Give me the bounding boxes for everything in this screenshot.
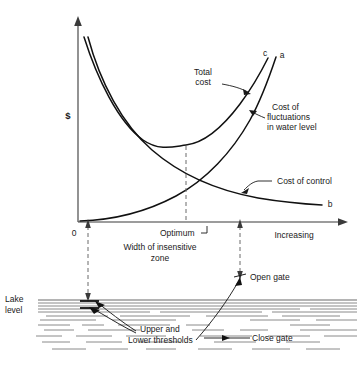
right-drop-arrowhead-up [237, 219, 243, 228]
width-label-line2: zone [151, 253, 170, 263]
fluctuations-leader-arrowhead [249, 110, 257, 116]
origin-label-zero: 0 [72, 228, 77, 238]
curve-letter-b: b [328, 199, 333, 209]
label-cost-fluctuations: Cost of fluctuations in water level [249, 102, 317, 132]
upper-threshold-leader [98, 303, 136, 331]
close-gate-label: Close gate [252, 333, 293, 343]
lake-level-line1: Lake [5, 294, 24, 304]
open-gate-pointer-line [196, 282, 238, 340]
curve-letter-a: a [280, 50, 285, 60]
figure-root: c a b Total cost Cost of fluctuations in… [0, 0, 357, 369]
fluctuations-line3: in water level [267, 122, 317, 132]
x-axis-label-increasing: Increasing [274, 230, 313, 240]
y-axis-label-dollar: $ [65, 110, 71, 121]
thresholds-label-line2: Lower thresholds [128, 335, 193, 345]
cost-control-leader-curve [244, 181, 258, 190]
curve-total-cost [84, 37, 268, 147]
annotation-optimum: Optimum [160, 226, 207, 238]
thresholds-label-line1: Upper and [140, 324, 180, 334]
total-cost-line1: Total [194, 67, 212, 77]
optimum-leader [201, 226, 207, 233]
fluctuations-line2: fluctuations [267, 112, 310, 122]
total-cost-line2: cost [195, 77, 211, 87]
x-axis-arrowhead [338, 218, 348, 226]
curve-letter-c: c [263, 48, 268, 58]
y-axis-arrowhead [74, 16, 82, 26]
open-gate-label: Open gate [250, 272, 290, 282]
optimum-label: Optimum [160, 228, 194, 238]
label-total-cost: Total cost [194, 67, 251, 95]
fluctuations-line1: Cost of [272, 102, 300, 112]
cost-control-text: Cost of control [277, 176, 332, 186]
lake-level-line2: level [5, 305, 23, 315]
label-cost-control: Cost of control [241, 176, 332, 194]
width-label-line1: Width of insensitive [123, 242, 196, 252]
open-gate-pointer-arrowhead [235, 277, 242, 286]
